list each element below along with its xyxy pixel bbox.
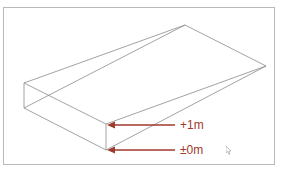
ramp-wireframe bbox=[0, 0, 285, 175]
arrow-upper bbox=[107, 122, 175, 129]
elevation-label-lower: ±0m bbox=[180, 144, 203, 156]
elevation-label-upper: +1m bbox=[180, 119, 204, 131]
mouse-cursor-icon bbox=[226, 146, 232, 155]
arrow-lower bbox=[107, 147, 175, 154]
